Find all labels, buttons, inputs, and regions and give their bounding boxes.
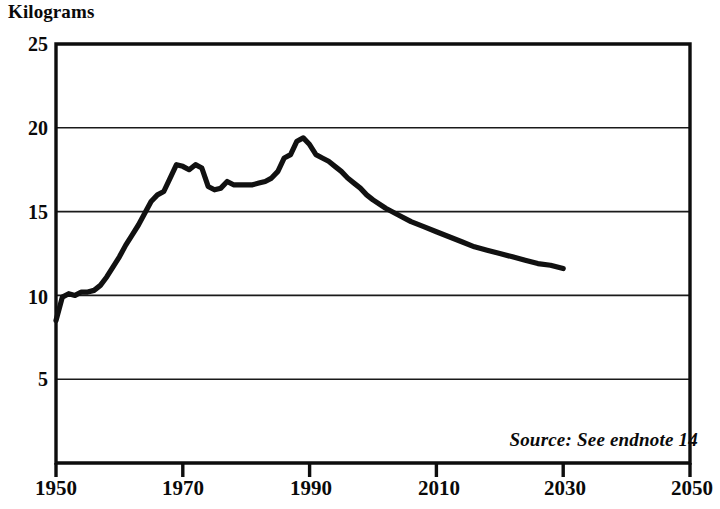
plot-canvas: [0, 0, 720, 509]
chart-figure: Kilograms 25 20 15 10 5 1950 1970 1990 2…: [0, 0, 720, 509]
plot-frame: [56, 44, 690, 463]
gridlines-group: [56, 128, 690, 379]
x-tick-marks: [56, 463, 690, 477]
axes-frame: [56, 44, 690, 463]
data-series-line: [56, 138, 563, 321]
